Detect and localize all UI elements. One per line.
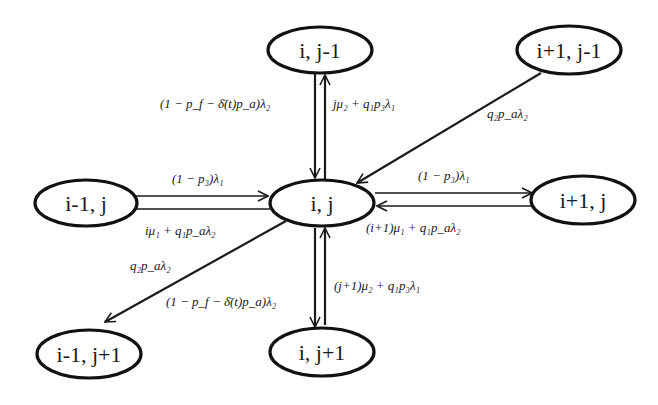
edge-topright-to-center [357,73,541,183]
label-left-to-center: (1 − p₃)λ₁ [172,171,224,186]
node-ip1-jm1: i+1, j-1 [517,26,621,74]
label-center-to-right: (1 − p₃)λ₁ [418,168,470,183]
node-im1-j: i-1, j [35,180,137,226]
node-ip1-j: i+1, j [531,176,635,224]
label-top-to-center: (1 − p_f − δ̄(t)p_a)λ₂ [160,96,271,111]
label-center-to-bottom: (1 − p_f − δ̄(t)p_a)λ₂ [166,294,277,309]
label-center-to-top: jμ₂ + q₁p₃λ₁ [331,96,395,111]
node-label: i, j [310,191,333,216]
node-label: i+1, j-1 [537,38,602,63]
label-right-to-center: (i+1)μ₁ + q₁p_aλ₂ [366,220,461,235]
node-label: i, j-1 [299,38,341,63]
node-i-j: i, j [270,180,374,226]
node-i-jm1: i, j-1 [268,27,372,73]
node-i-jp1: i, j+1 [270,328,374,376]
node-im1-jp1: i-1, j+1 [37,330,141,378]
label-topright-to-center: q₂p_aλ₂ [487,106,528,121]
node-label: i-1, j [65,191,107,216]
node-label: i, j+1 [299,340,346,365]
label-center-to-left: iμ₁ + q₁p_aλ₂ [145,223,216,238]
label-bottom-to-center: (j+1)μ₂ + q₁p₃λ₁ [334,278,420,293]
node-label: i-1, j+1 [57,342,122,367]
label-center-to-bottomleft: q₂p_aλ₂ [130,258,171,273]
node-label: i+1, j [560,188,607,213]
state-transition-diagram: (1 − p_f − δ̄(t)p_a)λ₂ jμ₂ + q₁p₃λ₁ q₂p_… [0,0,658,405]
